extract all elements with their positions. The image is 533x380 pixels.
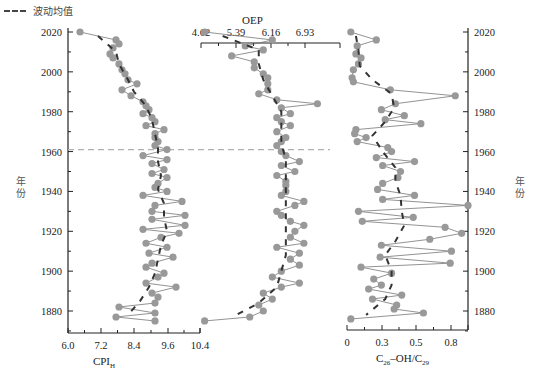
data-point (148, 289, 155, 296)
data-point (379, 162, 386, 169)
x-tick-label: 0 (344, 337, 349, 348)
data-point (278, 212, 285, 219)
data-point (148, 216, 155, 223)
data-point (145, 250, 152, 257)
y-tick-label: 1920 (41, 226, 62, 237)
y-tick-label: 1960 (41, 147, 62, 158)
data-point (426, 236, 433, 243)
data-point (163, 146, 170, 153)
data-point (287, 256, 294, 263)
data-point (163, 244, 170, 251)
data-point (118, 86, 125, 93)
y-tick-label: 1940 (474, 186, 495, 197)
x-tick-label: 6.93 (296, 27, 314, 38)
data-point (373, 154, 380, 161)
data-point (464, 202, 471, 209)
data-point (354, 138, 361, 145)
data-point (347, 28, 354, 35)
data-point (142, 264, 149, 271)
data-point (201, 28, 208, 35)
x-tick-label: 7.2 (94, 340, 107, 351)
data-point (269, 295, 276, 302)
data-point (401, 112, 408, 119)
data-point (255, 301, 262, 308)
data-point (355, 208, 362, 215)
x-axis-title: OEP (242, 14, 263, 26)
y-tick-label: 1900 (41, 266, 62, 277)
x-tick-label: 6.0 (61, 340, 74, 351)
data-point (163, 188, 170, 195)
data-point (291, 228, 298, 235)
x-axis-title: CPIH (93, 355, 115, 370)
y-tick-label: 2000 (474, 67, 495, 78)
x-tick-label: 10.4 (191, 340, 210, 351)
data-point (287, 122, 294, 129)
data-point (447, 260, 454, 267)
data-point (448, 248, 455, 255)
data-point (148, 208, 155, 215)
data-point (287, 218, 294, 225)
data-point (181, 222, 188, 229)
data-point (139, 192, 146, 199)
x-axis-title: C26–OH/C29 (376, 352, 430, 367)
data-point (163, 156, 170, 163)
data-point (357, 264, 364, 271)
x-tick-label: 9.6 (161, 340, 174, 351)
y-tick-label: 2020 (41, 27, 62, 38)
data-point (287, 110, 294, 117)
x-tick-label: 0.3 (375, 337, 388, 348)
data-point (411, 158, 418, 165)
data-point (300, 198, 307, 205)
data-point (354, 42, 361, 49)
x-tick-label: 6.16 (262, 27, 280, 38)
data-point (347, 315, 354, 322)
data-point (151, 309, 158, 316)
data-point (411, 192, 418, 199)
data-point (382, 116, 389, 123)
data-series (76, 28, 471, 324)
data-point (379, 196, 386, 203)
data-point (378, 106, 385, 113)
data-point (300, 222, 307, 229)
data-point (133, 80, 140, 87)
data-point (127, 92, 134, 99)
data-point (296, 158, 303, 165)
data-point (255, 90, 262, 97)
data-point (441, 224, 448, 231)
data-point (260, 307, 267, 314)
data-point (160, 270, 167, 277)
data-point (172, 283, 179, 290)
data-point (296, 250, 303, 257)
data-point (273, 172, 280, 179)
data-point (370, 276, 377, 283)
data-point (278, 283, 285, 290)
y-tick-label: 1880 (41, 306, 62, 317)
data-point (458, 230, 465, 237)
data-point (273, 142, 280, 149)
data-point (378, 281, 385, 288)
axes: 6.07.28.49.610.4CPIH18801900192019401960… (41, 14, 495, 370)
data-point (350, 66, 357, 73)
data-point (398, 291, 405, 298)
data-point (300, 240, 307, 247)
data-point (373, 36, 380, 43)
moving-mean-line (98, 36, 167, 315)
data-point (142, 280, 149, 287)
x-tick-label: 8.4 (127, 340, 141, 351)
y-axis-label-left: 年份 (16, 175, 26, 199)
data-point (148, 160, 155, 167)
chart-area: 6.07.28.49.610.4CPIH18801900192019401960… (0, 0, 533, 380)
data-point (228, 52, 235, 59)
data-point (201, 317, 208, 324)
data-point (151, 299, 158, 306)
data-point (269, 36, 276, 43)
y-tick-label: 2020 (474, 27, 495, 38)
data-point (378, 242, 385, 249)
data-point (273, 244, 280, 251)
data-point (420, 309, 427, 316)
data-point (139, 152, 146, 159)
y-tick-label: 1880 (474, 306, 495, 317)
y-tick-label: 1960 (474, 147, 495, 158)
data-point (148, 170, 155, 177)
data-point (76, 28, 83, 35)
